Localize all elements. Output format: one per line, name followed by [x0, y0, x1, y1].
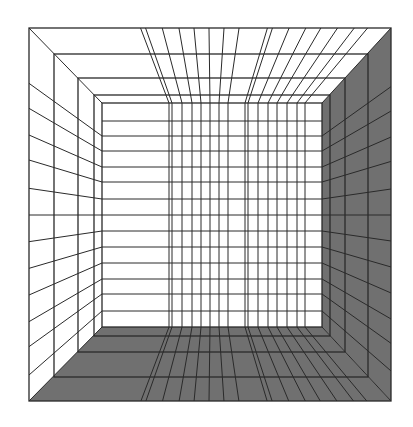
perspective-grid-canvas — [0, 0, 413, 427]
perspective-room-figure: Perspective grid room (one-point perspec… — [0, 0, 413, 427]
